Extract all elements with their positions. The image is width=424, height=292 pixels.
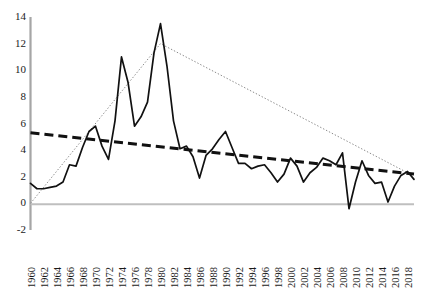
x-tick-1996: 1996: [261, 267, 272, 288]
piecewise-trend-line: [31, 44, 408, 204]
y-tick-2: 2: [0, 171, 26, 182]
y-tick-14: 14: [0, 11, 26, 22]
x-tick-2010: 2010: [352, 267, 363, 288]
x-tick-1990: 1990: [222, 267, 233, 288]
x-tick-2014: 2014: [378, 267, 389, 288]
x-tick-1982: 1982: [170, 267, 181, 288]
x-tick-2000: 2000: [287, 267, 298, 288]
x-tick-1964: 1964: [53, 267, 64, 288]
x-tick-1984: 1984: [183, 267, 194, 288]
y-tick-10: 10: [0, 64, 26, 75]
x-tick-2004: 2004: [313, 267, 324, 288]
x-tick-1976: 1976: [131, 267, 142, 288]
y-tick-8: 8: [0, 91, 26, 102]
data-series-line: [31, 24, 415, 209]
x-tick-1974: 1974: [118, 267, 129, 288]
x-tick-2018: 2018: [404, 267, 415, 288]
x-tick-1978: 1978: [144, 267, 155, 288]
x-tick-1994: 1994: [248, 267, 259, 288]
x-tick-2012: 2012: [365, 267, 376, 288]
y-tick-6: 6: [0, 118, 26, 129]
x-tick-1972: 1972: [105, 267, 116, 288]
x-tick-2008: 2008: [339, 267, 350, 288]
y-tick-0: 0: [0, 197, 26, 208]
x-tick-2002: 2002: [300, 267, 311, 288]
x-tick-1998: 1998: [274, 267, 285, 288]
x-tick-1968: 1968: [79, 267, 90, 288]
y-tick-4: 4: [0, 144, 26, 155]
x-tick-1960: 1960: [27, 267, 38, 288]
x-tick-1980: 1980: [157, 267, 168, 288]
x-tick-1966: 1966: [66, 267, 77, 288]
x-tick-2016: 2016: [391, 267, 402, 288]
x-tick-1962: 1962: [40, 267, 51, 288]
x-tick-1986: 1986: [196, 267, 207, 288]
y-tick-neg2: -2: [0, 224, 26, 235]
x-tick-1988: 1988: [209, 267, 220, 288]
y-tick-12: 12: [0, 38, 26, 49]
x-tick-1970: 1970: [92, 267, 103, 288]
chart-container: 14121086420-2 19601962196419661968197019…: [0, 0, 424, 292]
x-tick-2006: 2006: [326, 267, 337, 288]
linear-trend-line: [31, 133, 415, 174]
line-chart-plot: [0, 0, 424, 292]
x-tick-1992: 1992: [235, 267, 246, 288]
